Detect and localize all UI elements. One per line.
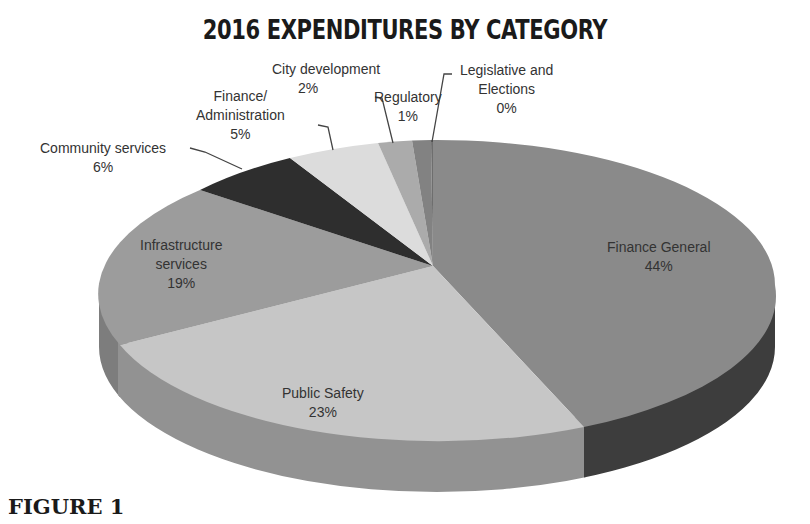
label-regulatory: Regulatory 1% — [374, 88, 442, 126]
label-public-safety: Public Safety 23% — [282, 384, 364, 422]
label-community-services: Community services 6% — [40, 139, 166, 177]
label-finance-administration: Finance/ Administration 5% — [196, 87, 285, 144]
label-legislative-elections: Legislative and Elections 0% — [460, 61, 553, 118]
label-infrastructure-services: Infrastructure services 19% — [140, 236, 222, 293]
label-city-development: City development 2% — [272, 60, 380, 98]
label-finance-general: Finance General 44% — [607, 238, 711, 276]
figure-caption: FIGURE 1 — [8, 494, 124, 519]
